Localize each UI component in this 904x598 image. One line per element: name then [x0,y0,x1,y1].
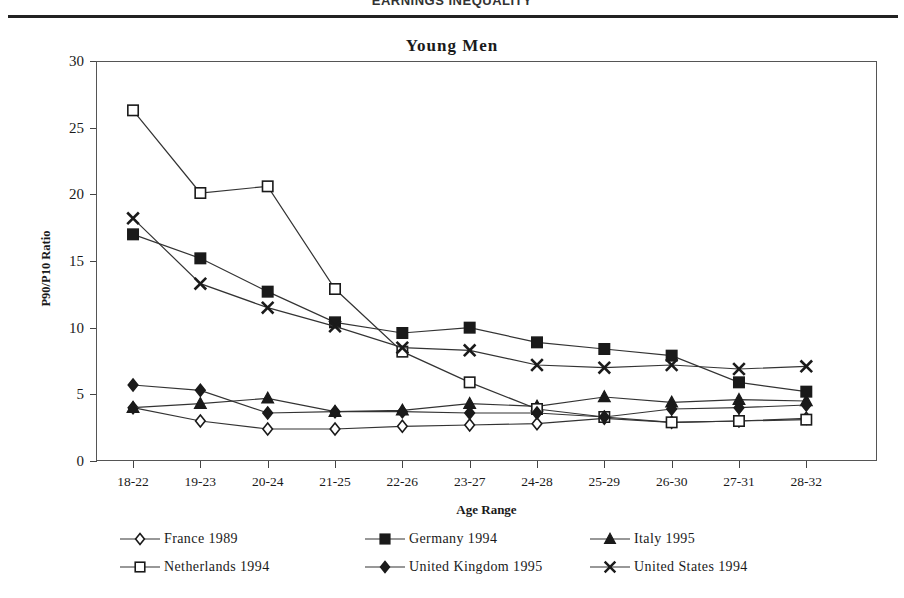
x-axis-tick-mark [268,461,269,468]
x-axis-tick-mark [739,461,740,468]
series-marker [464,322,474,332]
x-axis-tick-mark [402,461,403,468]
series-marker [195,278,207,290]
legend-label: Germany 1994 [407,531,497,547]
legend-label: United Kingdom 1995 [407,559,543,575]
x-axis-tick-mark [200,461,201,468]
series-marker [465,419,475,431]
legend-marker-x-cross-icon [588,557,632,577]
y-axis-tick-label: 25 [44,119,84,136]
series-marker [128,105,138,115]
y-axis-tick-label: 30 [44,53,84,70]
series-marker [263,423,273,435]
series-marker [666,417,676,427]
legend-label: France 1989 [162,531,238,547]
x-axis-tick-mark [537,461,538,468]
legend-item-germany-1994[interactable]: Germany 1994 [363,527,497,551]
y-axis-tick-mark [90,461,97,462]
chart-legend: France 1989Germany 1994Italy 1995Netherl… [118,527,818,583]
x-axis-title: Age Range [96,502,877,518]
series-marker [398,420,408,432]
series-united-states-1994 [127,213,812,375]
chart-title: Young Men [0,36,904,56]
legend-item-united-kingdom-1995[interactable]: United Kingdom 1995 [363,555,543,579]
y-axis-tick-label: 5 [44,386,84,403]
series-marker [666,350,676,360]
series-marker [734,377,744,387]
series-line [133,218,806,369]
x-axis-tick-mark [806,461,807,468]
page-running-header: EARNINGS INEQUALITY [0,0,904,14]
series-marker [195,188,205,198]
legend-marker-filled-diamond-icon [363,557,407,577]
series-line [133,234,806,391]
page-header-text: EARNINGS INEQUALITY [0,0,904,8]
y-axis-tick-label: 10 [44,319,84,336]
series-marker [734,416,744,426]
legend-marker-open-square-icon [118,557,162,577]
series-netherlands-1994 [128,105,812,427]
series-marker [262,302,274,314]
series-marker [532,337,542,347]
series-marker [599,344,609,354]
x-axis-tick-label: 28-32 [766,474,846,490]
series-marker [128,229,138,239]
series-marker [127,213,139,225]
chart-figure: Young Men P90/P10 Ratio 05101520253018-2… [0,22,904,598]
y-axis-tick-label: 20 [44,186,84,203]
y-axis-tick-label: 15 [44,253,84,270]
x-axis-tick-mark [470,461,471,468]
x-axis-tick-mark [604,461,605,468]
x-axis-tick-mark [335,461,336,468]
legend-marker-open-diamond-icon [118,529,162,549]
legend-item-netherlands-1994[interactable]: Netherlands 1994 [118,555,270,579]
x-axis-tick-mark [672,461,673,468]
series-marker [196,415,206,427]
series-marker [397,328,407,338]
series-marker [262,181,272,191]
series-marker [263,407,273,419]
legend-item-italy-1995[interactable]: Italy 1995 [588,527,695,551]
series-marker [598,391,610,402]
series-marker [398,406,408,418]
y-axis-tick-label: 0 [44,453,84,470]
series-line [133,110,806,422]
legend-label: Italy 1995 [632,531,695,547]
series-marker [801,414,811,424]
legend-item-france-1989[interactable]: France 1989 [118,527,238,551]
series-marker [464,377,474,387]
series-marker [262,392,274,403]
series-germany-1994 [128,229,812,397]
series-marker [195,253,205,263]
series-marker [262,286,272,296]
series-marker [330,423,340,435]
series-marker [330,284,340,294]
plot-series-svg [96,61,877,461]
legend-label: Netherlands 1994 [162,559,270,575]
series-marker [128,379,138,391]
header-divider-rule [8,15,898,18]
x-axis-tick-mark [133,461,134,468]
legend-label: United States 1994 [632,559,748,575]
series-marker [196,384,206,396]
legend-marker-filled-triangle-icon [588,529,632,549]
legend-marker-filled-square-icon [363,529,407,549]
legend-item-united-states-1994[interactable]: United States 1994 [588,555,748,579]
